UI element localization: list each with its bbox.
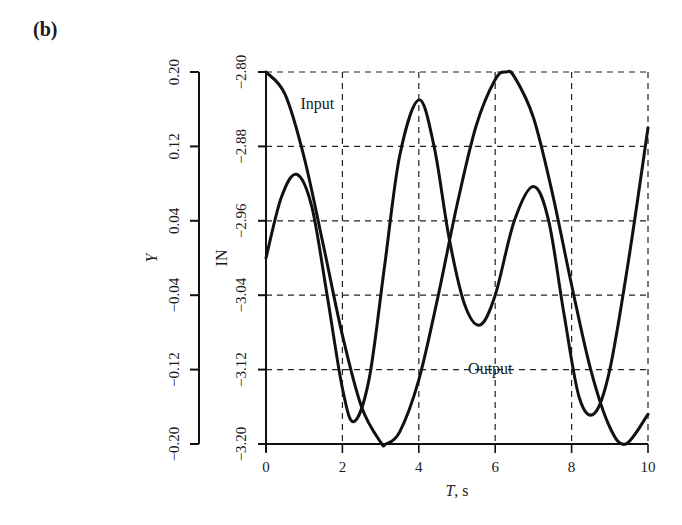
x-axis-title: T, s <box>445 482 468 499</box>
in-tick-label: −3.20 <box>233 427 249 462</box>
dual-axis-line-chart: 0.200.120.04−0.04−0.12−0.20Y−2.80−2.88−2… <box>0 0 682 525</box>
in-tick-label: −3.12 <box>233 352 249 387</box>
y-tick-label: 0.20 <box>166 59 182 85</box>
grid-lines <box>266 72 648 444</box>
in-tick-label: −2.80 <box>233 55 249 90</box>
in-tick-label: −3.04 <box>233 277 249 312</box>
y-tick-label: −0.20 <box>166 427 182 462</box>
y-tick-label: −0.04 <box>166 277 182 312</box>
in-tick-label: −2.96 <box>233 203 249 238</box>
output-annotation: Output <box>468 360 513 378</box>
in-axis-title: IN <box>213 249 230 266</box>
x-tick-label: 4 <box>415 459 423 475</box>
y-tick-label: 0.12 <box>166 133 182 159</box>
series-lines <box>266 71 648 446</box>
series-input-line <box>266 71 648 446</box>
y-axis-title: Y <box>143 251 160 262</box>
x-tick-label: 0 <box>262 459 270 475</box>
x-tick-label: 2 <box>339 459 347 475</box>
in-tick-label: −2.88 <box>233 129 249 164</box>
input-annotation: Input <box>300 95 334 113</box>
x-tick-label: 6 <box>491 459 499 475</box>
x-tick-label: 8 <box>568 459 576 475</box>
tick-labels: 0.200.120.04−0.04−0.12−0.20Y−2.80−2.88−2… <box>143 55 656 475</box>
y-tick-label: 0.04 <box>166 207 182 234</box>
x-tick-label: 10 <box>641 459 656 475</box>
y-tick-label: −0.12 <box>166 352 182 387</box>
